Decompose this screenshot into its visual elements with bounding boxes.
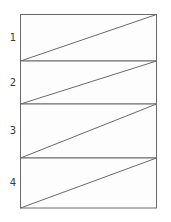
row-3-group <box>21 104 157 158</box>
diagram-canvas <box>0 0 171 222</box>
row-label-1: 1 <box>4 33 16 43</box>
row-label-4: 4 <box>4 178 16 188</box>
row-label-3: 3 <box>4 126 16 136</box>
row-1-group <box>21 15 157 62</box>
row-4-group <box>21 158 157 208</box>
row-label-2: 2 <box>4 78 16 88</box>
row-2-group <box>21 61 157 104</box>
diagram-figure: 1 2 3 4 <box>0 0 171 222</box>
